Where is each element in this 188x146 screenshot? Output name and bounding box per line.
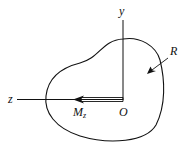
section-outline <box>46 38 164 140</box>
y-axis-label: y <box>118 4 125 18</box>
moment-subscript: z <box>82 111 87 120</box>
origin-label: O <box>119 105 128 119</box>
resultant-label: R <box>169 44 178 58</box>
moment-label: Mz <box>72 105 87 120</box>
section-diagram: y z O R Mz <box>0 0 188 146</box>
z-axis-label: z <box>7 92 13 106</box>
resultant-arrow <box>147 58 168 74</box>
